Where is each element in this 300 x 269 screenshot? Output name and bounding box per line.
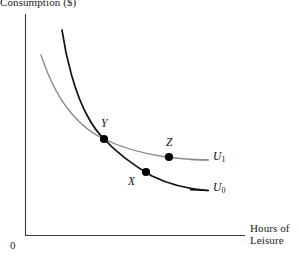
- point-label-z: Z: [166, 136, 172, 148]
- curve-u0: [62, 30, 207, 191]
- curve-u1: [41, 55, 207, 160]
- leader-line-u0: [190, 190, 209, 191]
- point-label-x: X: [128, 175, 135, 187]
- curve-label-u0: U0: [213, 181, 225, 193]
- point-marker-y: [100, 135, 108, 143]
- origin-label: 0: [10, 239, 16, 251]
- point-marker-x: [142, 168, 150, 176]
- point-marker-z: [165, 153, 173, 161]
- curve-label-u1: U1: [213, 150, 225, 162]
- x-axis-title: Hours ofLeisure: [250, 222, 290, 247]
- curve-label-u0-subscript: 0: [222, 186, 226, 195]
- x-axis-title-line1: Hours of: [250, 222, 290, 234]
- indifference-curve-figure: Consumption ($) Hours ofLeisure 0 Y X Z …: [0, 0, 300, 269]
- x-axis-title-line2: Leisure: [250, 234, 284, 246]
- curve-label-u0-letter: U: [213, 181, 221, 193]
- point-label-y: Y: [101, 117, 107, 129]
- curve-label-u1-letter: U: [213, 150, 221, 162]
- y-axis-title: Consumption ($): [0, 0, 76, 8]
- curve-label-u1-subscript: 1: [222, 155, 226, 164]
